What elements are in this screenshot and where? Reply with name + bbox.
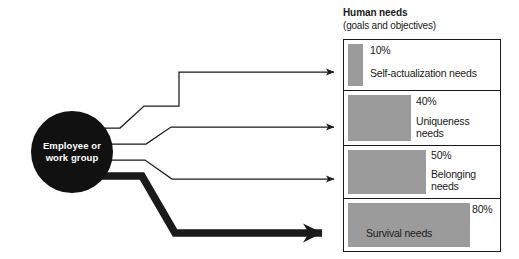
- need-bar-belonging: [348, 150, 426, 194]
- need-percent-uniqueness: 40%: [416, 95, 436, 108]
- page-subtitle: (goals and objectives): [343, 19, 508, 32]
- page-title: Human needs: [343, 6, 508, 19]
- need-item-uniqueness[interactable]: 40% Uniqueness needs: [343, 91, 501, 146]
- connector-self-actualization: [104, 72, 334, 128]
- human-needs-header: Human needs (goals and objectives): [343, 6, 508, 32]
- need-item-self-actualization[interactable]: 10% Self-actualization needs: [343, 39, 501, 91]
- need-label-survival: Survival needs: [366, 227, 432, 239]
- need-bar-survival: [348, 203, 470, 247]
- need-percent-belonging: 50%: [431, 149, 451, 162]
- need-bar-self-actualization: [348, 44, 363, 86]
- connector-uniqueness: [108, 127, 334, 144]
- need-label-uniqueness: Uniqueness needs: [416, 115, 469, 139]
- need-bar-uniqueness: [348, 95, 411, 141]
- connector-survival: [98, 176, 322, 233]
- human-needs-list: 10% Self-actualization needs 40% Uniquen…: [343, 39, 501, 252]
- source-node-label: Employee or work group: [43, 140, 101, 164]
- need-label-self-actualization: Self-actualization needs: [370, 67, 477, 79]
- source-node-employee-or-work-group[interactable]: Employee or work group: [31, 111, 113, 193]
- need-percent-survival: 80%: [472, 203, 492, 216]
- need-item-survival[interactable]: 80% Survival needs: [343, 199, 501, 252]
- need-percent-self-actualization: 10%: [370, 44, 390, 57]
- diagram-canvas: Employee or work group Human needs (goal…: [0, 0, 519, 259]
- need-item-belonging[interactable]: 50% Belonging needs: [343, 146, 501, 199]
- need-label-belonging: Belonging needs: [431, 168, 476, 192]
